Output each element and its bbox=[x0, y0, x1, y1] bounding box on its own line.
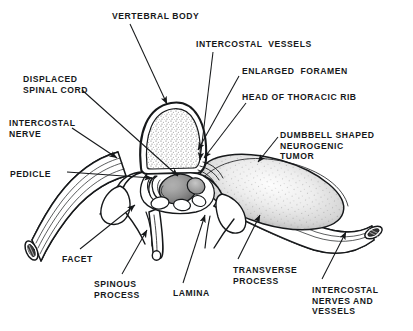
label-transverse-process: TRANSVERSEPROCESS bbox=[233, 265, 297, 286]
label-facet: FACET bbox=[62, 254, 93, 265]
label-head-of-thoracic-rib: HEAD OF THORACIC RIB bbox=[242, 92, 357, 103]
label-line: PROCESS bbox=[94, 290, 140, 301]
label-line: DISPLACED bbox=[23, 74, 88, 85]
label-line: SPINAL CORD bbox=[23, 85, 88, 96]
label-pedicle: PEDICLE bbox=[10, 169, 51, 180]
leader-spinous-process bbox=[122, 230, 147, 274]
label-line: LAMINA bbox=[173, 288, 210, 299]
leader-lamina bbox=[183, 215, 205, 283]
label-line: INTERCOSTAL bbox=[312, 285, 379, 296]
vertebral-body bbox=[140, 103, 206, 174]
label-line: NERVES AND bbox=[312, 296, 379, 307]
vertebra-cross-section-drawing bbox=[0, 0, 413, 331]
leader-vertebral-body bbox=[130, 24, 167, 104]
label-dumbbell-tumor: DUMBBELL SHAPEDNEUROGENICTUMOR bbox=[280, 130, 375, 162]
label-line: NERVE bbox=[9, 129, 76, 140]
spinal-canal bbox=[140, 170, 214, 213]
label-line: PEDICLE bbox=[10, 169, 51, 180]
label-line: VESSELS bbox=[312, 306, 379, 317]
label-line: ENLARGED FORAMEN bbox=[242, 66, 348, 77]
label-line: NEUROGENIC bbox=[280, 141, 375, 152]
label-vertebral-body: VERTEBRAL BODY bbox=[112, 11, 199, 22]
label-line: VERTEBRAL BODY bbox=[112, 11, 199, 22]
label-displaced-spinal-cord: DISPLACEDSPINAL CORD bbox=[23, 74, 88, 95]
label-intercostal-vessels: INTERCOSTAL VESSELS bbox=[196, 39, 312, 50]
leader-head-thoracic-rib bbox=[204, 103, 246, 158]
label-spinous-process: SPINOUSPROCESS bbox=[94, 279, 140, 300]
label-line: FACET bbox=[62, 254, 93, 265]
label-line: PROCESS bbox=[233, 276, 297, 287]
label-line: TRANSVERSE bbox=[233, 265, 297, 276]
label-intercostal-nerve: INTERCOSTALNERVE bbox=[9, 118, 76, 139]
label-line: INTERCOSTAL bbox=[9, 118, 76, 129]
label-lamina: LAMINA bbox=[173, 288, 210, 299]
label-line: DUMBBELL SHAPED bbox=[280, 130, 375, 141]
label-intercostal-nerves-and-vessels: INTERCOSTALNERVES ANDVESSELS bbox=[312, 285, 379, 317]
label-line: HEAD OF THORACIC RIB bbox=[242, 92, 357, 103]
label-line: INTERCOSTAL VESSELS bbox=[196, 39, 312, 50]
leader-intercostal-nerve bbox=[72, 128, 117, 158]
label-enlarged-foramen: ENLARGED FORAMEN bbox=[242, 66, 348, 77]
label-line: SPINOUS bbox=[94, 279, 140, 290]
label-line: TUMOR bbox=[280, 151, 375, 162]
anatomical-figure: VERTEBRAL BODYINTERCOSTAL VESSELSENLARGE… bbox=[0, 0, 413, 331]
